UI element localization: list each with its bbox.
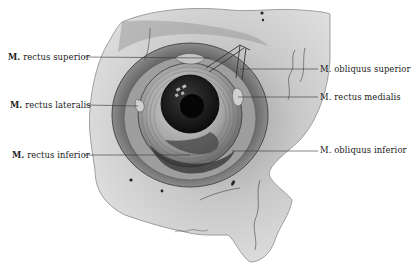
label-prefix: M.	[320, 145, 331, 155]
label-rectus-lateralis: M. rectus lateralis	[10, 100, 91, 110]
label-prefix: M.	[10, 100, 22, 110]
label-prefix: M.	[12, 150, 24, 160]
label-text: obliquus superior	[334, 64, 410, 74]
label-text: rectus superior	[23, 52, 90, 62]
label-text: obliquus inferior	[334, 145, 406, 155]
label-rectus-medialis: M. rectus medialis	[320, 92, 401, 102]
label-rectus-superior: M. rectus superior	[8, 52, 90, 62]
label-prefix: M.	[320, 92, 331, 102]
label-text: rectus lateralis	[25, 100, 91, 110]
pupil	[180, 94, 204, 118]
label-obliquus-inferior: M. obliquus inferior	[320, 145, 407, 155]
label-prefix: M.	[8, 52, 20, 62]
label-rectus-inferior: M. rectus inferior	[12, 150, 90, 160]
label-text: rectus medialis	[334, 92, 400, 102]
label-obliquus-superior: M. obliquus superior	[320, 64, 411, 74]
label-prefix: M.	[320, 64, 331, 74]
label-text: rectus inferior	[27, 150, 90, 160]
